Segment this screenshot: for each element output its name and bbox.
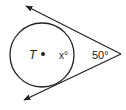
center-label: T — [29, 48, 38, 62]
center-point — [41, 52, 45, 56]
angle-label: 50° — [92, 49, 109, 61]
circle-tangent-diagram: T x° 50° — [0, 0, 126, 110]
arc-label: x° — [59, 50, 68, 61]
